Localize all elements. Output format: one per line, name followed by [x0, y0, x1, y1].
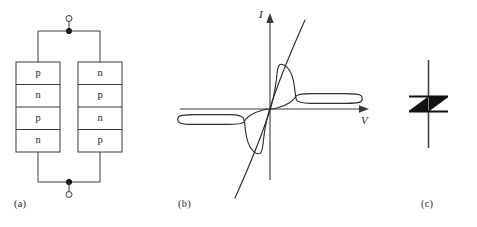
iv-characteristic-chart: I V	[160, 0, 380, 227]
iv-curve	[235, 64, 362, 198]
diac-symbol-diagram	[380, 0, 477, 227]
bottom-terminal-circle[interactable]	[66, 192, 72, 198]
right-layer-2-label: p	[97, 89, 102, 100]
current-axis-arrowhead	[266, 13, 273, 23]
structure-diagram: p n p n n p n p	[0, 0, 160, 227]
right-layer-4-label: p	[97, 134, 102, 145]
left-layer-3-label: p	[35, 112, 40, 123]
caption-a: (a)	[14, 198, 26, 209]
left-layer-1-label: p	[35, 67, 40, 78]
caption-c: (c)	[421, 198, 433, 209]
right-layer-3-label: n	[97, 112, 103, 123]
left-layer-4-label: n	[35, 134, 41, 145]
voltage-axis-label: V	[361, 114, 369, 126]
top-terminal-circle[interactable]	[66, 16, 72, 22]
voltage-axis-arrowhead	[359, 105, 369, 112]
right-layer-1-label: n	[97, 67, 103, 78]
figure-container: p n p n n p n p (a)	[0, 0, 477, 227]
panel-b-characteristic: I V (b)	[160, 0, 380, 227]
iv-curve-mirror	[178, 20, 305, 154]
symbol-triangle-up	[409, 97, 428, 111]
left-layer-2-label: n	[35, 89, 41, 100]
caption-b: (b)	[178, 198, 191, 209]
symbol-triangle-down	[429, 97, 448, 111]
panel-c-symbol: (c)	[380, 0, 477, 227]
panel-a-structure: p n p n n p n p (a)	[0, 0, 160, 227]
current-axis-label: I	[258, 8, 264, 20]
